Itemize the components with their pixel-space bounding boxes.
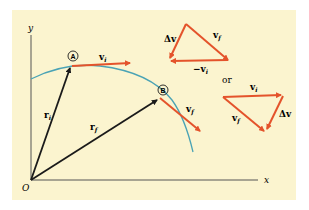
tri-top-vf <box>186 24 228 60</box>
r-i-label: ri <box>44 110 52 121</box>
tri-bot-vi <box>223 95 281 97</box>
r-i-vector <box>31 68 70 180</box>
velocity-triangle-top: Δv vf −vi <box>164 24 228 75</box>
svg-text:A: A <box>70 53 75 60</box>
v-i-label: vi <box>98 52 107 63</box>
tri-bot-dv-label: Δv <box>279 109 292 119</box>
svg-text:B: B <box>160 87 165 94</box>
tri-bot-vf-label: vf <box>231 113 241 125</box>
tri-bot-vf <box>223 97 264 131</box>
velocity-triangle-bottom: vi vf Δv <box>223 82 292 131</box>
v-f-label: vf <box>185 104 195 116</box>
tri-top-neg-vi <box>171 60 228 61</box>
tri-top-dv-label: Δv <box>164 34 177 44</box>
r-f-vector <box>31 100 157 180</box>
origin-label: O <box>22 183 30 193</box>
v-f-vector <box>160 98 200 131</box>
tri-bot-vi-label: vi <box>249 82 258 93</box>
x-axis-label: x <box>264 175 269 185</box>
y-axis-label: y <box>27 23 34 33</box>
tri-top-neg-vi-label: −vi <box>193 64 209 75</box>
point-a-marker: A <box>68 51 78 61</box>
tri-top-vf-label: vf <box>212 30 222 42</box>
point-b-marker: B <box>158 85 168 95</box>
kinematics-diagram: y x O ri rf A B vi vf Δv vf −vi or vi vf… <box>0 0 309 210</box>
or-label: or <box>222 75 232 85</box>
r-f-label: rf <box>90 122 99 134</box>
